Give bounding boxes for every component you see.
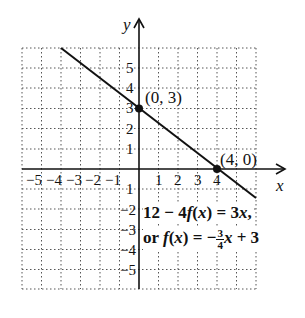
equation-line-1: 12 − 4f(x) = 3x, bbox=[143, 203, 252, 222]
x-tick-neg1: −1 bbox=[105, 173, 121, 188]
y-tick-1: 1 bbox=[126, 142, 134, 157]
fraction-three-quarters: 34 bbox=[216, 228, 224, 251]
x-tick-2: 2 bbox=[174, 173, 182, 188]
x-axis-label: x bbox=[276, 178, 284, 193]
point-label-0-3: (0, 3) bbox=[145, 90, 182, 105]
y-tick-neg3: −3 bbox=[120, 223, 136, 238]
y-tick-neg1: 1 bbox=[126, 182, 134, 197]
y-tick-3: 3 bbox=[126, 101, 134, 116]
x-tick-neg2: −2 bbox=[85, 173, 101, 188]
y-tick-neg5: −5 bbox=[120, 263, 136, 278]
y-tick-4: 4 bbox=[126, 81, 134, 96]
coordinate-plane bbox=[0, 0, 305, 318]
equation-line-2: or f(x) = −34x + 3 bbox=[143, 228, 259, 251]
y-tick-neg2: −2 bbox=[120, 203, 136, 218]
x-tick-4: 4 bbox=[213, 173, 221, 188]
y-tick-neg4: −4 bbox=[120, 243, 136, 258]
x-tick-neg4: −4 bbox=[46, 173, 62, 188]
y-tick-5: 5 bbox=[126, 61, 134, 76]
point-0-3 bbox=[135, 105, 143, 113]
y-axis-label: y bbox=[123, 17, 131, 32]
y-tick-2: 2 bbox=[126, 122, 134, 137]
x-tick-3: 3 bbox=[194, 173, 202, 188]
x-tick-neg3: −3 bbox=[66, 173, 82, 188]
x-tick-1: 1 bbox=[155, 173, 163, 188]
point-label-4-0: (4, 0) bbox=[220, 152, 257, 167]
x-tick-neg5: −5 bbox=[26, 173, 42, 188]
